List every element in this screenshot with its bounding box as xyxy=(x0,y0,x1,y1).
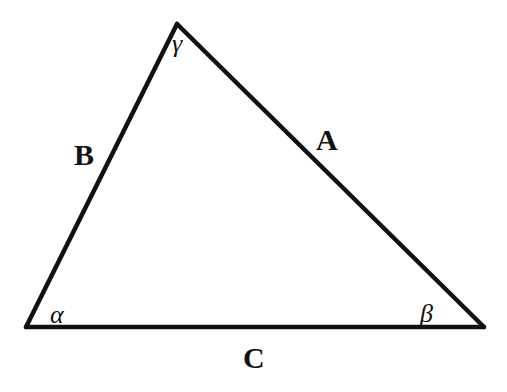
angle-alpha-label: α xyxy=(50,300,65,329)
side-c-label: C xyxy=(243,341,265,374)
side-a-label: A xyxy=(316,123,338,156)
angle-beta-label: β xyxy=(419,299,433,328)
angle-gamma-label: γ xyxy=(172,29,183,58)
side-b-label: B xyxy=(74,138,94,171)
triangle-diagram: B A C γ α β xyxy=(0,0,507,392)
side-a-edge xyxy=(177,24,484,327)
side-b-edge xyxy=(26,24,177,327)
